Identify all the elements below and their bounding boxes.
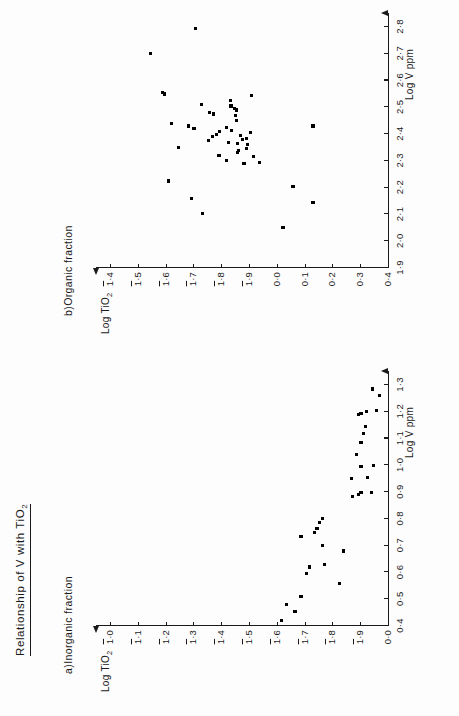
- panel-b-y-tick: [138, 264, 139, 268]
- data-point: [170, 122, 173, 125]
- data-point: [305, 572, 308, 575]
- data-point: [201, 212, 204, 215]
- panel-a-x-tick: [384, 571, 388, 572]
- panel-a-x-tick: [384, 464, 388, 465]
- data-point: [365, 410, 368, 413]
- data-point: [372, 464, 375, 467]
- data-point: [299, 535, 302, 538]
- data-point: [239, 134, 242, 137]
- panel-a-y-tick: [166, 622, 167, 626]
- data-point: [355, 453, 358, 456]
- panel-b-x-axis-line: [388, 13, 389, 268]
- figure-page: Relationship of V with TiO2 a)Inorganic …: [0, 0, 459, 716]
- data-point: [241, 138, 244, 141]
- panel-b-x-tick: [384, 106, 388, 107]
- data-point: [375, 409, 378, 412]
- panel-b-y-tick-overbar: 1: [132, 281, 143, 286]
- data-point: [217, 154, 220, 157]
- panel-b-y-tick-overbar: 1: [215, 281, 226, 286]
- data-point: [313, 531, 316, 534]
- panel-b-y-tick-overbar: 1: [160, 281, 171, 286]
- data-point: [200, 103, 203, 106]
- panel-a-x-tick-label: 0·7: [394, 536, 405, 555]
- panel-b-x-tick-label: 2·7: [394, 44, 405, 63]
- panel-b-y-tick-overbar: 1: [104, 281, 115, 286]
- panel-a-y-tick-overbar: 1: [271, 639, 282, 644]
- data-point: [192, 127, 195, 130]
- panel-a-x-tick-label: 0·9: [394, 482, 405, 501]
- panel-b-x-tick-label: 2·1: [394, 204, 405, 223]
- data-point: [229, 99, 232, 102]
- data-point: [378, 394, 381, 397]
- data-point: [321, 544, 324, 547]
- panel-a-y-tick-overbar: 1: [215, 639, 226, 644]
- panel-organic-fraction: b)Organic fraction Log TiO2 Log V ppm 1·…: [0, 0, 459, 358]
- panel-a-x-tick: [384, 518, 388, 519]
- panel-a-x-tick-label: 1·2: [394, 402, 405, 421]
- data-point: [225, 126, 228, 129]
- panel-a-y-tick-overbar: 1: [160, 639, 171, 644]
- data-point: [218, 130, 221, 133]
- panel-a-x-axis-arrow-icon: [381, 368, 388, 374]
- panel-a-y-tick: [388, 622, 389, 626]
- data-point: [366, 476, 369, 479]
- panel-b-y-tick: [305, 264, 306, 268]
- data-point: [190, 197, 193, 200]
- data-point: [230, 129, 233, 132]
- data-point: [318, 521, 321, 524]
- data-point: [242, 162, 245, 165]
- panel-a-y-tick: [305, 622, 306, 626]
- data-point: [281, 226, 284, 229]
- panel-b-x-tick: [384, 26, 388, 27]
- panel-a-y-tick-overbar: 1: [299, 639, 310, 644]
- panel-b-y-tick: [332, 264, 333, 268]
- data-point: [245, 147, 248, 150]
- panel-a-x-tick-label: 0·4: [394, 616, 405, 635]
- panel-a-y-tick-overbar: 1: [132, 639, 143, 644]
- panel-a-y-tick-overbar: 1: [354, 639, 365, 644]
- panel-b-y-tick-label: 1·4: [104, 272, 115, 302]
- data-point: [208, 111, 211, 114]
- panel-b-y-tick-label: 1·7: [187, 272, 198, 302]
- panel-b-y-tick-label: 1·9: [243, 272, 254, 302]
- data-point: [211, 135, 214, 138]
- panel-b-y-tick: [277, 264, 278, 268]
- panel-b-x-tick-label: 2·3: [394, 151, 405, 170]
- data-point: [359, 465, 362, 468]
- data-point: [149, 52, 152, 55]
- panel-b-y-tick-label: 1·8: [215, 272, 226, 302]
- panel-inorganic-fraction: a)Inorganic fraction Log TiO2 Log V ppm …: [0, 358, 459, 716]
- panel-a-x-tick-label: 1·0: [394, 455, 405, 474]
- panel-a-y-tick-overbar: 1: [104, 639, 115, 644]
- panel-a-x-axis-label: Log V ppm: [404, 407, 415, 458]
- panel-a-y-tick-label: 0·0: [382, 630, 393, 660]
- panel-b-x-axis-label: Log V ppm: [404, 49, 415, 100]
- data-point: [212, 112, 215, 115]
- panel-a-x-tick-label: 0·6: [394, 562, 405, 581]
- panel-a-x-tick: [384, 411, 388, 412]
- panel-b-y-tick-overbar: 1: [187, 281, 198, 286]
- panel-b-y-tick-label: 0·2: [326, 272, 337, 302]
- panel-b-x-tick: [384, 240, 388, 241]
- panel-b-y-tick-label: 0·0: [271, 272, 282, 302]
- data-point: [370, 491, 373, 494]
- panel-a-title: a)Inorganic fraction: [62, 576, 74, 674]
- data-point: [357, 413, 360, 416]
- panel-a-x-tick-label: 1·3: [394, 375, 405, 394]
- panel-a-y-axis-label-text: Log TiO: [100, 655, 111, 692]
- panel-b-x-tick: [384, 213, 388, 214]
- data-point: [364, 425, 367, 428]
- panel-a-y-tick: [138, 622, 139, 626]
- panel-b-x-tick-label: 2·6: [394, 71, 405, 90]
- panel-b-y-tick: [388, 264, 389, 268]
- panel-a-y-tick-overbar: 1: [326, 639, 337, 644]
- data-point: [163, 92, 166, 95]
- panel-a-y-tick: [332, 622, 333, 626]
- panel-b-y-axis-line: [96, 267, 388, 268]
- panel-a-y-tick: [249, 622, 250, 626]
- data-point: [236, 151, 239, 154]
- panel-b-x-tick-label: 2·2: [394, 178, 405, 197]
- data-point: [321, 517, 324, 520]
- panel-a-y-tick-label: 1·5: [243, 630, 254, 660]
- panel-a-y-tick-label: 1·2: [160, 630, 171, 660]
